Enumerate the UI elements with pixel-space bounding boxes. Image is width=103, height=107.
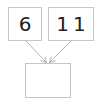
top-right-number: 11 [56,14,89,34]
top-left-number-box: 6 [8,7,42,41]
arrow-left-to-bottom [26,41,46,62]
answer-box[interactable] [25,63,71,98]
top-right-number-box: 11 [48,7,94,41]
top-left-number: 6 [19,14,32,34]
arrow-right-to-bottom [50,41,71,62]
